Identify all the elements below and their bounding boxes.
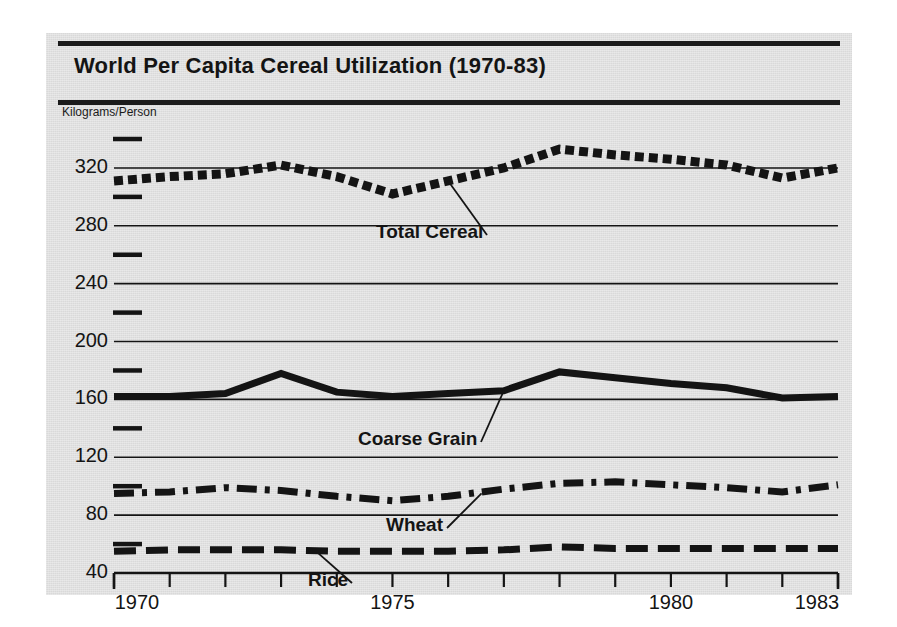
chart-figure: World Per Capita Cereal Utilization (197… (46, 33, 852, 595)
series-label-wheat: Wheat (386, 514, 443, 536)
series-label-rice: Rice (308, 569, 348, 591)
series-label-total-cereal: Total Cereal (376, 221, 483, 243)
x-tick-label: 1980 (642, 591, 700, 614)
x-tick-label: 1970 (108, 591, 166, 614)
series-line-coarse-grain (114, 372, 838, 398)
data-series-group (114, 149, 838, 551)
x-axis-group (114, 573, 838, 589)
y-tick-label: 200 (52, 329, 108, 352)
x-tick-label: 1975 (363, 591, 421, 614)
y-tick-label: 320 (52, 155, 108, 178)
title-rule-top (58, 41, 840, 46)
y-tick-label: 40 (52, 560, 108, 583)
plot-canvas (46, 99, 852, 595)
leader-line (481, 391, 504, 442)
y-tick-label: 280 (52, 213, 108, 236)
chart-title: World Per Capita Cereal Utilization (197… (74, 53, 546, 79)
series-line-total-cereal (114, 149, 838, 194)
title-band: World Per Capita Cereal Utilization (197… (46, 33, 852, 99)
y-tick-label: 120 (52, 444, 108, 467)
y-tick-label: 80 (52, 502, 108, 525)
x-tick-label: 1983 (788, 591, 846, 614)
series-line-rice (114, 547, 838, 551)
plot-area: 4080120160200240280320 1970197519801983 … (46, 99, 852, 595)
y-axis-title: Kilograms/Person (62, 105, 157, 119)
y-tick-label: 160 (52, 386, 108, 409)
y-tick-label: 240 (52, 271, 108, 294)
series-label-coarse-grain: Coarse Grain (358, 428, 477, 450)
